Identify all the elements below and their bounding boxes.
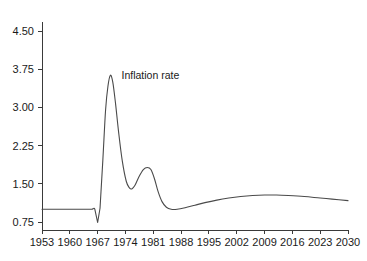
x-tick-label: 2023 bbox=[308, 236, 332, 248]
y-tick-label: 1.50 bbox=[13, 178, 34, 190]
inflation-rate-chart: 4.503.753.002.251.500.75 195319601967197… bbox=[0, 0, 367, 261]
y-tick-label: 3.75 bbox=[13, 63, 34, 75]
inflation-rate-annotation-label: Inflation rate bbox=[121, 69, 179, 81]
x-tick-label: 1960 bbox=[58, 236, 82, 248]
x-tick-label: 1953 bbox=[30, 236, 54, 248]
chart-canvas: 4.503.753.002.251.500.75 195319601967197… bbox=[0, 0, 367, 261]
x-tick-label: 2030 bbox=[336, 236, 360, 248]
x-tick-label: 1974 bbox=[113, 236, 137, 248]
x-tick-label: 1981 bbox=[141, 236, 165, 248]
x-tick-label: 2009 bbox=[252, 236, 276, 248]
y-axis-tick-labels: 4.503.753.002.251.500.75 bbox=[13, 25, 34, 228]
x-tick-label: 1995 bbox=[197, 236, 221, 248]
y-tick-label: 4.50 bbox=[13, 25, 34, 37]
x-axis-tick-labels: 1953196019671974198119881995200220092016… bbox=[30, 236, 360, 248]
x-tick-label: 2016 bbox=[280, 236, 304, 248]
x-tick-label: 2002 bbox=[224, 236, 248, 248]
x-axis-tick-marks bbox=[42, 230, 348, 234]
y-tick-label: 2.25 bbox=[13, 140, 34, 152]
y-tick-label: 3.00 bbox=[13, 101, 34, 113]
x-tick-label: 1967 bbox=[85, 236, 109, 248]
y-axis-tick-marks bbox=[38, 31, 42, 222]
y-tick-label: 0.75 bbox=[13, 216, 34, 228]
inflation-rate-series-line bbox=[42, 75, 348, 222]
x-tick-label: 1988 bbox=[169, 236, 193, 248]
